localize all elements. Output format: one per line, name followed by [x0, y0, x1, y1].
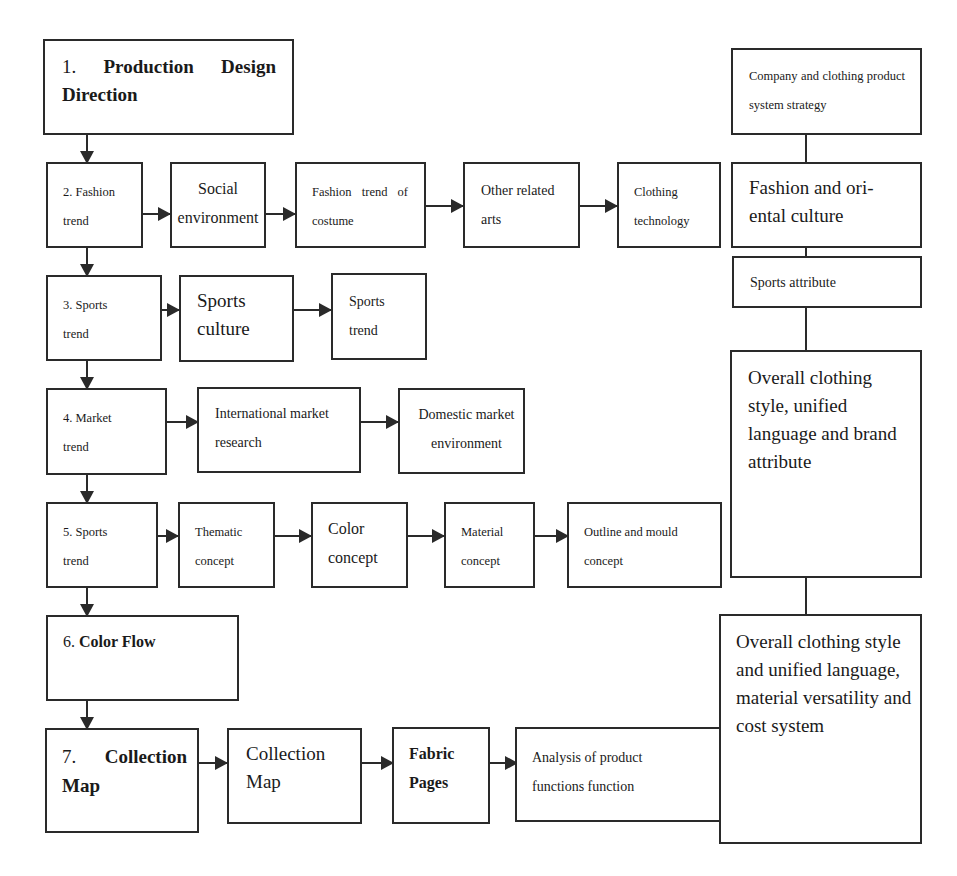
- connector-sports-attribute-to-brand: [805, 308, 807, 351]
- arrow-material-to-outline: [535, 535, 568, 537]
- step7-number: 7.: [62, 742, 76, 771]
- fashion-trend-of-costume-label: Fashion trend of costume: [312, 178, 408, 236]
- step6-label: Color Flow: [79, 633, 156, 650]
- step5-label: 5. Sports trend: [63, 518, 123, 576]
- node-domestic-market-environment: Domestic market environment: [398, 388, 525, 474]
- arrow-international-to-domestic: [361, 421, 398, 423]
- outline-and-mould-concept-label: Outline and mould concept: [584, 518, 694, 576]
- arrow-step4-to-international: [167, 421, 198, 423]
- step7-collection-map: 7. Collection Map Collection Map: [45, 728, 199, 833]
- material-concept-label: Material concept: [461, 518, 526, 576]
- arrow-step4-to-step5: [86, 475, 88, 503]
- node-overall-style-cost-system: Overall clothing style and unified langu…: [719, 614, 922, 844]
- arrow-step5-to-thematic: [158, 535, 178, 537]
- arrow-fabric-to-analysis: [490, 762, 517, 764]
- step6-color-flow: 6. Color Flow: [46, 615, 239, 701]
- node-sports-attribute: Sports attribute: [732, 256, 922, 308]
- step3-sports-trend: 3. Sports trend: [46, 275, 162, 361]
- arrow-thematic-to-color: [275, 535, 311, 537]
- sports-attribute-label: Sports attribute: [750, 268, 912, 297]
- arrow-fashion-costume-to-other-arts: [426, 205, 463, 207]
- node-color-concept: Color concept: [311, 502, 408, 588]
- node-fashion-oriental-culture: Fashion and ori-ental culture: [731, 162, 922, 248]
- arrow-step2-to-step3: [86, 248, 88, 276]
- color-concept-label: Color concept: [328, 514, 398, 572]
- arrow-social-to-fashion-costume: [266, 213, 295, 215]
- arrow-step3-to-step4: [86, 361, 88, 389]
- step3-label: 3. Sports trend: [63, 291, 123, 349]
- collection-map-label: Collection Map: [246, 740, 346, 796]
- step6-number: 6.: [63, 633, 75, 650]
- node-company-product-strategy: Company and clothing product system stra…: [731, 48, 922, 135]
- step7-word-map: Map: [62, 771, 187, 800]
- arrow-step6-to-step7: [86, 701, 88, 729]
- step4-market-trend: 4. Market trend: [46, 388, 167, 475]
- node-clothing-technology: Clothing technology: [617, 162, 721, 248]
- thematic-concept-label: Thematic concept: [195, 518, 265, 576]
- connector-brand-to-cost-system: [805, 578, 807, 615]
- fabric-pages-label: Fabric Pages: [409, 739, 469, 797]
- node-sports-culture: Sports culture: [179, 275, 294, 362]
- arrow-color-to-material: [408, 535, 444, 537]
- step7-word-collection: Collection: [105, 742, 187, 771]
- international-market-research-label: International market research: [215, 399, 351, 457]
- sports-trend-label: Sports trend: [349, 287, 409, 345]
- step2-fashion-trend: 2. Fashion trend: [46, 162, 143, 248]
- sports-culture-label: Sports culture: [197, 287, 277, 343]
- node-collection-map: Collection Map: [227, 728, 362, 824]
- connector-fashion-oriental-to-sports-attribute: [805, 248, 807, 256]
- social-environment-label: Social environment: [174, 174, 262, 232]
- node-material-concept: Material concept: [444, 502, 535, 588]
- step1-word-direction: Direction: [62, 81, 276, 109]
- node-international-market-research: International market research: [197, 387, 361, 473]
- arrow-step3-to-sports-culture: [162, 309, 179, 311]
- analysis-of-product-functions-label: Analysis of product functions function: [532, 743, 682, 801]
- arrow-sports-culture-to-sports-trend: [294, 309, 331, 311]
- domestic-market-environment-label: Domestic market environment: [412, 400, 521, 458]
- connector-company-to-fashion-oriental: [805, 135, 807, 162]
- node-fabric-pages: Fabric Pages: [392, 727, 490, 824]
- arrow-collection-map-to-fabric: [362, 762, 393, 764]
- overall-style-brand-attribute-label: Overall clothing style, unified language…: [748, 364, 898, 476]
- arrow-step7-to-collection-map: [199, 762, 227, 764]
- fashion-oriental-culture-label: Fashion and ori-ental culture: [749, 174, 889, 230]
- node-fashion-trend-of-costume: Fashion trend of costume: [295, 162, 426, 248]
- node-outline-and-mould-concept: Outline and mould concept: [567, 502, 722, 588]
- step1-word-design: Design: [221, 53, 276, 81]
- step1-production-design-direction: 1. Production Design Direction Productio…: [43, 39, 294, 135]
- company-product-strategy-label: Company and clothing product system stra…: [749, 62, 905, 120]
- step1-number: 1.: [62, 53, 76, 81]
- node-social-environment: Social environment: [170, 162, 266, 248]
- node-sports-trend: Sports trend: [331, 273, 427, 360]
- arrow-step1-to-step2: [86, 135, 88, 163]
- step2-label: 2. Fashion trend: [63, 178, 133, 236]
- overall-style-cost-system-label: Overall clothing style and unified langu…: [736, 628, 916, 740]
- node-analysis-of-product-functions: Analysis of product functions function: [515, 727, 725, 822]
- other-related-arts-label: Other related arts: [481, 176, 571, 234]
- step5-sports-trend: 5. Sports trend: [46, 502, 158, 588]
- clothing-technology-label: Clothing technology: [634, 178, 714, 236]
- step1-word-production: Production: [103, 53, 193, 81]
- node-thematic-concept: Thematic concept: [178, 502, 275, 588]
- arrow-other-arts-to-clothing-tech: [580, 205, 617, 207]
- step4-label: 4. Market trend: [63, 404, 133, 462]
- node-overall-style-brand-attribute: Overall clothing style, unified language…: [730, 350, 922, 578]
- arrow-step5-to-step6: [86, 588, 88, 616]
- node-other-related-arts: Other related arts: [463, 162, 580, 248]
- arrow-step2-to-social: [143, 213, 170, 215]
